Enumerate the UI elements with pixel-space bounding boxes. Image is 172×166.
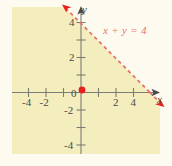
x-tick-label-pos4: 4 (131, 97, 137, 108)
x-tick-label-neg4: -4 (22, 97, 31, 108)
x-tick-label-pos2: 2 (113, 97, 119, 108)
y-tick-label-neg4: -4 (64, 140, 73, 151)
y-tick-label-pos2: 2 (69, 52, 75, 63)
x-tick-label-neg2: -2 (40, 97, 49, 108)
y-axis-label: y (82, 4, 87, 15)
y-tick-label-neg2: -2 (64, 105, 73, 116)
test-point-origin (79, 87, 86, 94)
inequality-graph-figure: -4 -2 2 4 0 4 2 -2 -4 y x x + y = 4 (0, 0, 172, 166)
y-tick-label-pos4: 4 (69, 17, 75, 28)
origin-label: 0 (71, 88, 77, 99)
equation-label: x + y = 4 (103, 25, 147, 36)
x-axis-label: x (157, 94, 162, 105)
